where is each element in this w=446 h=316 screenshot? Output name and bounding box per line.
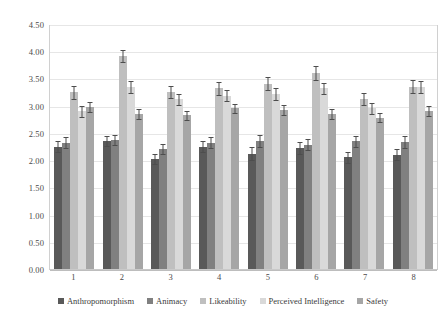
error-bar-cap-top bbox=[176, 94, 181, 95]
bar-groups bbox=[50, 25, 437, 269]
error-bar-cap-bottom bbox=[298, 154, 303, 155]
error-bar bbox=[412, 80, 413, 93]
bar-slot bbox=[352, 141, 360, 269]
error-bar-cap-top bbox=[233, 104, 238, 105]
error-bar-cap-bottom bbox=[410, 93, 415, 94]
legend-label: Perceived Intelligence bbox=[269, 297, 345, 306]
error-bar-cap-top bbox=[402, 136, 407, 137]
bar-slot bbox=[280, 110, 288, 269]
bar bbox=[86, 107, 94, 269]
error-bar-cap-top bbox=[160, 144, 165, 145]
bar-slot bbox=[127, 87, 135, 269]
error-bar bbox=[300, 142, 301, 154]
bar-slot bbox=[256, 141, 264, 269]
bar-slot bbox=[376, 118, 384, 269]
bar-slot bbox=[86, 107, 94, 269]
x-tick-label: 3 bbox=[149, 272, 193, 282]
bar-group bbox=[393, 25, 433, 269]
error-bar-cap-bottom bbox=[314, 80, 319, 81]
bar-group bbox=[199, 25, 239, 269]
bar-slot bbox=[417, 87, 425, 269]
error-bar-cap-top bbox=[273, 88, 278, 89]
error-bar bbox=[138, 109, 139, 119]
error-bar-cap-top bbox=[354, 136, 359, 137]
x-tick-label: 4 bbox=[197, 272, 241, 282]
bar bbox=[127, 87, 135, 269]
error-bar bbox=[219, 82, 220, 95]
error-bar-cap-top bbox=[362, 93, 367, 94]
error-bar bbox=[114, 135, 115, 145]
legend-item[interactable]: Likeability bbox=[200, 297, 246, 306]
bar bbox=[175, 99, 183, 269]
error-bar bbox=[308, 139, 309, 150]
error-bar-cap-bottom bbox=[56, 152, 61, 153]
legend-label: Safety bbox=[366, 297, 388, 306]
error-bar-cap-bottom bbox=[152, 164, 157, 165]
error-bar-cap-top bbox=[370, 103, 375, 104]
bar-slot bbox=[175, 99, 183, 269]
legend-item[interactable]: Anthropomorphism bbox=[58, 297, 134, 306]
error-bar bbox=[106, 136, 107, 146]
error-bar-cap-bottom bbox=[273, 100, 278, 101]
legend-item[interactable]: Safety bbox=[357, 297, 388, 306]
bar-chart: 4.504.003.503.002.502.001.501.000.500.00… bbox=[0, 0, 446, 316]
bar bbox=[135, 114, 143, 269]
error-bar-cap-top bbox=[184, 111, 189, 112]
x-tick-label: 6 bbox=[294, 272, 338, 282]
bar-group bbox=[296, 25, 336, 269]
bar-slot bbox=[207, 143, 215, 269]
error-bar-cap-bottom bbox=[233, 113, 238, 114]
bar-slot bbox=[344, 157, 352, 269]
bar-slot bbox=[401, 142, 409, 269]
error-bar-cap-top bbox=[112, 135, 117, 136]
bar-slot bbox=[62, 143, 70, 269]
y-tick-label: 4.00 bbox=[4, 48, 44, 57]
error-bar-cap-bottom bbox=[378, 122, 383, 123]
error-bar-cap-top bbox=[378, 113, 383, 114]
bar-slot bbox=[151, 159, 159, 269]
error-bar bbox=[356, 136, 357, 147]
x-tick-label: 5 bbox=[246, 272, 290, 282]
error-bar-cap-bottom bbox=[394, 160, 399, 161]
error-bar-cap-bottom bbox=[249, 160, 254, 161]
bar bbox=[231, 108, 239, 269]
error-bar-cap-bottom bbox=[160, 154, 165, 155]
bar-slot bbox=[183, 115, 191, 269]
y-tick-label: 2.00 bbox=[4, 157, 44, 166]
bar bbox=[111, 140, 119, 269]
bar-slot bbox=[360, 99, 368, 269]
error-bar bbox=[203, 141, 204, 152]
legend-swatch-icon bbox=[147, 298, 153, 304]
bar-slot bbox=[103, 141, 111, 269]
error-bar-cap-bottom bbox=[112, 145, 117, 146]
error-bar bbox=[130, 81, 131, 93]
error-bar-cap-bottom bbox=[265, 90, 270, 91]
error-bar-cap-top bbox=[394, 149, 399, 150]
y-tick-label: 4.50 bbox=[4, 21, 44, 30]
y-tick-label: 3.00 bbox=[4, 103, 44, 112]
bar-slot bbox=[393, 155, 401, 269]
bar bbox=[409, 87, 417, 269]
error-bar bbox=[170, 86, 171, 98]
legend-item[interactable]: Perceived Intelligence bbox=[260, 297, 345, 306]
bar-slot bbox=[119, 56, 127, 269]
bar bbox=[296, 148, 304, 269]
bar bbox=[78, 111, 86, 269]
error-bar-cap-top bbox=[104, 136, 109, 137]
legend-item[interactable]: Animacy bbox=[147, 297, 187, 306]
error-bar bbox=[316, 66, 317, 79]
error-bar-cap-bottom bbox=[184, 120, 189, 121]
error-bar-cap-bottom bbox=[225, 101, 230, 102]
x-tick-label: 2 bbox=[100, 272, 144, 282]
x-tick-label: 1 bbox=[51, 272, 95, 282]
bar-group bbox=[344, 25, 384, 269]
error-bar bbox=[348, 152, 349, 163]
error-bar bbox=[227, 90, 228, 101]
bar bbox=[223, 96, 231, 269]
error-bar bbox=[396, 149, 397, 160]
error-bar bbox=[186, 111, 187, 121]
bar-slot bbox=[159, 149, 167, 269]
bar-slot bbox=[409, 87, 417, 269]
error-bar bbox=[162, 144, 163, 154]
error-bar bbox=[364, 93, 365, 105]
